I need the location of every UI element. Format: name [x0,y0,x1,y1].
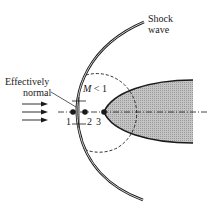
flow-arrows-icon [22,102,48,123]
point-1-marker [70,109,76,115]
effectively-normal-label-line2: normal [23,87,52,98]
blunt-body [104,80,193,143]
mach-condition: < 1 [91,83,107,94]
shock-wave-label-line2: wave [148,24,170,35]
diagram-svg: Shock wave Effectively normal M < 1 1 2 … [0,0,221,207]
effectively-normal-leader [51,92,76,107]
point-3-marker [101,109,107,115]
point-1-label: 1 [66,116,71,127]
point-2-marker [82,109,88,115]
point-2-label: 2 [87,116,92,127]
point-3-label: 3 [96,116,101,127]
shock-wave-label-line1: Shock [148,13,173,24]
mach-label: M < 1 [82,83,107,94]
bow-shock-diagram: Shock wave Effectively normal M < 1 1 2 … [0,0,221,207]
effectively-normal-label-line1: Effectively [5,76,49,87]
